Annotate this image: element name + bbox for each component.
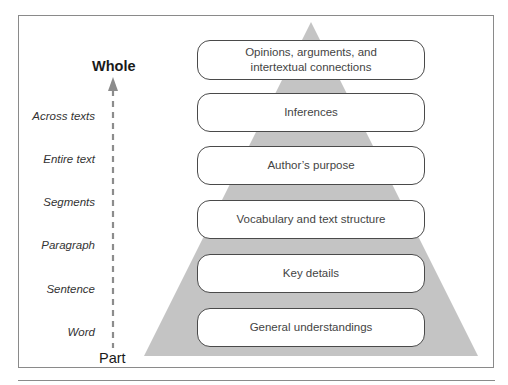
- tier-label: General understandings: [250, 320, 373, 335]
- tier-vocabulary-text-structure: Vocabulary and text structure: [197, 200, 425, 239]
- tier-label-line1: Opinions, arguments, and: [245, 45, 377, 60]
- tier-general-understandings: General understandings: [197, 308, 425, 347]
- arrowhead-icon: [108, 77, 118, 91]
- level-label-across-texts: Across texts: [32, 110, 95, 122]
- tier-inferences: Inferences: [197, 93, 425, 132]
- tier-authors-purpose: Author’s purpose: [197, 146, 425, 185]
- tier-label-line2: intertextual connections: [245, 60, 377, 75]
- part-label: Part: [99, 350, 126, 366]
- tier-key-details: Key details: [197, 254, 425, 293]
- tier-label: Key details: [283, 266, 339, 281]
- level-label-segments: Segments: [43, 196, 95, 208]
- level-label-word: Word: [68, 326, 95, 338]
- level-label-sentence: Sentence: [46, 283, 95, 295]
- tier-label: Author’s purpose: [267, 158, 354, 173]
- level-label-paragraph: Paragraph: [41, 239, 95, 251]
- tier-label: Inferences: [284, 105, 338, 120]
- tier-label: Vocabulary and text structure: [237, 212, 386, 227]
- whole-label: Whole: [92, 58, 136, 74]
- level-label-entire-text: Entire text: [43, 153, 95, 165]
- tier-opinions-arguments: Opinions, arguments, and intertextual co…: [197, 40, 425, 80]
